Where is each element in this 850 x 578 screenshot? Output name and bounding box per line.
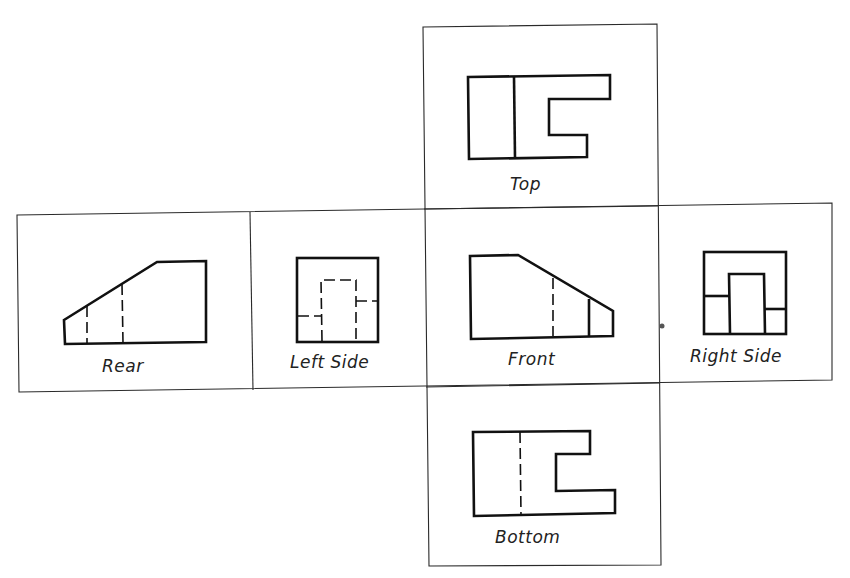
view-rear: Rear bbox=[64, 261, 206, 376]
projection-diagram: Top Rear Left Side Front Right Side Bott… bbox=[0, 0, 850, 578]
divider-rear-left bbox=[250, 212, 253, 390]
vertical-strip-frame bbox=[423, 24, 661, 566]
scan-dot bbox=[660, 324, 665, 329]
label-front: Front bbox=[508, 349, 556, 369]
divider-top-front bbox=[424, 206, 658, 209]
label-rear: Rear bbox=[102, 356, 144, 376]
view-right-side: Right Side bbox=[690, 252, 786, 366]
label-top: Top bbox=[510, 174, 541, 194]
view-top: Top bbox=[468, 75, 610, 194]
view-bottom: Bottom bbox=[473, 431, 615, 547]
label-bottom: Bottom bbox=[495, 527, 560, 547]
label-right-side: Right Side bbox=[690, 346, 782, 366]
view-front: Front bbox=[470, 255, 613, 369]
label-left-side: Left Side bbox=[290, 352, 369, 372]
view-left-side: Left Side bbox=[290, 258, 378, 372]
